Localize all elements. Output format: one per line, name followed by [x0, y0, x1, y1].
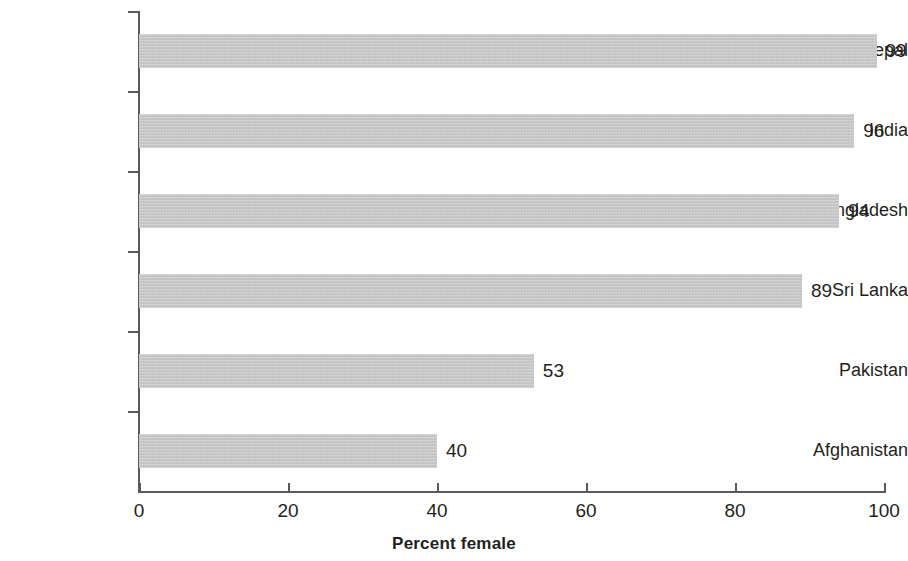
bar	[139, 274, 802, 308]
bar-row: 94	[139, 171, 884, 251]
y-axis-tick	[128, 411, 139, 413]
bar-chart-figure: NepalIndiaBangladeshSri LankaPakistanAfg…	[0, 0, 908, 561]
y-axis-tick	[128, 331, 139, 333]
bar-value-label: 40	[437, 434, 467, 468]
bar-value-label: 89	[802, 274, 832, 308]
bar	[139, 354, 534, 388]
bar	[139, 34, 877, 68]
bar-row: 40	[139, 411, 884, 491]
bar-row: 89	[139, 251, 884, 331]
x-axis-tick-label: 60	[575, 500, 596, 522]
bar-value-label: 94	[839, 194, 869, 228]
x-axis-tick-label: 80	[724, 500, 745, 522]
bar-value-label: 53	[534, 354, 564, 388]
y-axis-tick	[128, 91, 139, 93]
bar	[139, 434, 437, 468]
x-axis-tick-label: 100	[868, 500, 900, 522]
x-axis-title: Percent female	[0, 534, 908, 554]
y-axis-tick	[128, 171, 139, 173]
bar-value-label: 99	[877, 34, 907, 68]
bar-row: 53	[139, 331, 884, 411]
bar	[139, 114, 854, 148]
x-axis-tick-label: 40	[426, 500, 447, 522]
bar-row: 96	[139, 91, 884, 171]
bar-row: 99	[139, 11, 884, 91]
x-axis-tick-label: 20	[277, 500, 298, 522]
y-axis-tick	[128, 11, 139, 13]
y-axis-tick	[128, 251, 139, 253]
bar	[139, 194, 839, 228]
plot-area: 999694895340	[139, 11, 884, 492]
x-axis-tick	[884, 483, 886, 493]
x-axis-tick-label: 0	[134, 500, 145, 522]
bar-value-label: 96	[854, 114, 884, 148]
